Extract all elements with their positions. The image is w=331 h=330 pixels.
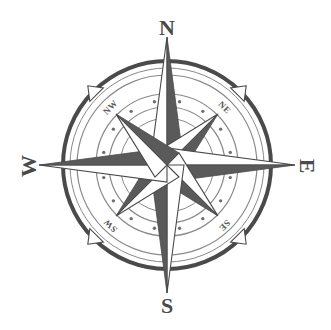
label-east: E [295,159,320,174]
ring-dot [112,127,115,130]
ring-dot [112,199,115,202]
label-south: S [161,293,173,318]
ring-dot [229,176,232,179]
compass-rose-figure: NSWENWNESWSE [0,0,331,330]
ring-dot [102,151,105,154]
ring-dot [201,217,204,220]
ring-dot [129,217,132,220]
ring-dot [178,100,181,103]
label-north: N [159,15,175,40]
compass-rose-canvas: NSWENWNESWSE [0,0,331,330]
ring-dot [178,227,181,230]
label-west: W [16,155,41,177]
ring-dot [102,176,105,179]
ring-dot [219,127,222,130]
ring-dot [153,100,156,103]
ring-dot [219,199,222,202]
ring-dot [153,227,156,230]
ring-dot [229,151,232,154]
ring-dot [129,110,132,113]
ring-dot [201,110,204,113]
